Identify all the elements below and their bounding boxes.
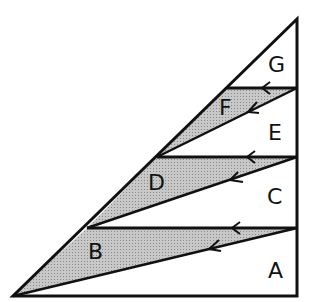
label-d: D bbox=[148, 170, 165, 195]
label-e: E bbox=[268, 120, 282, 145]
label-a: A bbox=[268, 258, 283, 283]
label-c: C bbox=[267, 184, 282, 209]
label-f: F bbox=[219, 95, 232, 120]
triangle-diagram: A B C D E F G bbox=[0, 0, 316, 302]
label-b: B bbox=[88, 239, 103, 264]
label-g: G bbox=[268, 52, 285, 77]
